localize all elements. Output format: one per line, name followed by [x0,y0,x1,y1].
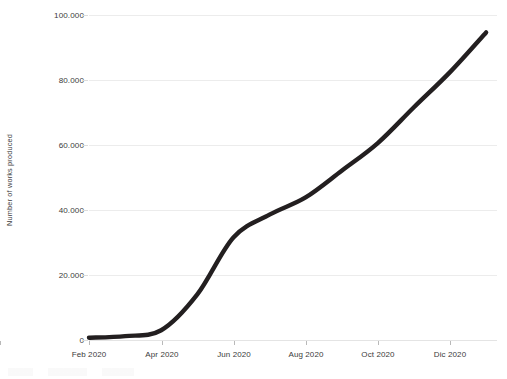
series-layer [0,0,507,379]
series-line-cumulative-works-produced [89,32,486,337]
cropped-caption-artifact [8,368,188,376]
line-chart: Number of works produced 100.000 80.000 … [0,0,507,379]
